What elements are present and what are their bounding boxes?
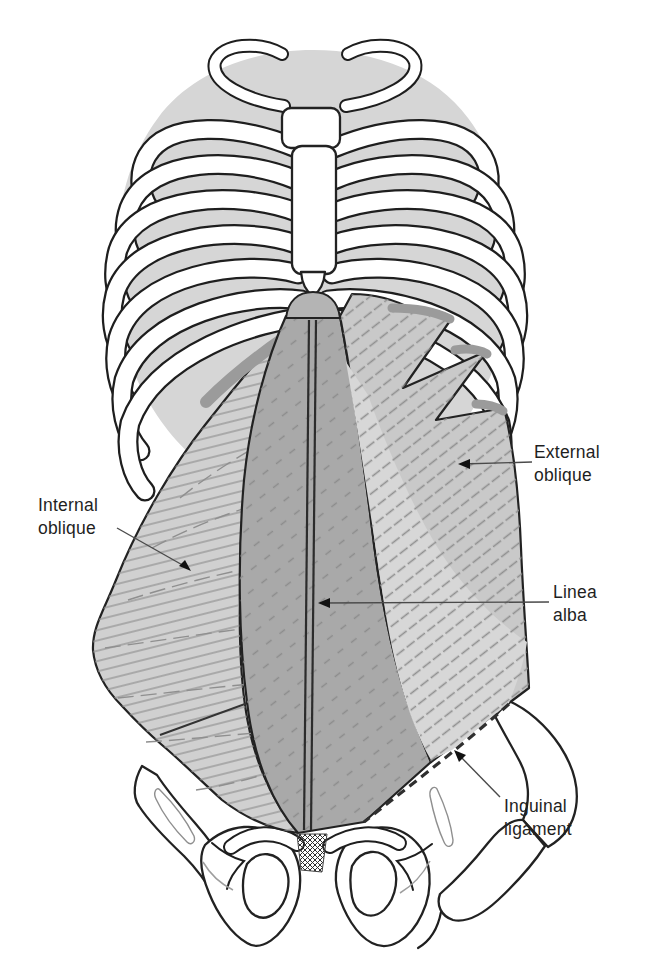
pubic-symphysis-hatch xyxy=(297,834,327,872)
label-inguinal-ligament-line1: Inguinal xyxy=(504,795,572,818)
label-external-oblique-line1: External xyxy=(534,441,600,464)
label-inguinal-ligament-line2: ligament xyxy=(504,818,572,841)
label-inguinal-ligament: Inguinal ligament xyxy=(504,795,572,841)
digitation-cut-edge-3 xyxy=(476,404,503,411)
leader-linea-alba xyxy=(322,602,549,603)
label-linea-alba-line1: Linea xyxy=(553,581,597,604)
label-internal-oblique: Internal oblique xyxy=(38,494,98,540)
label-linea-alba: Linea alba xyxy=(553,581,597,627)
leader-inguinal-ligament xyxy=(458,754,500,797)
digitation-cut-edge-2 xyxy=(455,349,487,354)
label-external-oblique-line2: oblique xyxy=(534,464,600,487)
label-linea-alba-line2: alba xyxy=(553,604,597,627)
manubrium xyxy=(282,108,340,148)
sternum-body xyxy=(292,146,336,274)
label-internal-oblique-line1: Internal xyxy=(38,494,98,517)
label-internal-oblique-line2: oblique xyxy=(38,517,98,540)
right-crest-highlight xyxy=(430,787,453,846)
figure-abdominal-muscles: Internal oblique External oblique Linea … xyxy=(0,0,647,959)
label-external-oblique: External oblique xyxy=(534,441,600,487)
